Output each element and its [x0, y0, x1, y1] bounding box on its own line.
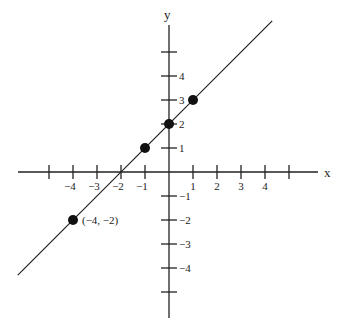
y-tick-label: 3 [179, 94, 185, 106]
x-tick-label: −3 [88, 180, 100, 192]
x-tick-label: 1 [190, 180, 196, 192]
x-tick-label: 2 [214, 180, 220, 192]
x-tick-label: −1 [136, 180, 148, 192]
x-tick-label: −2 [112, 180, 124, 192]
y-tick-label: −2 [179, 214, 191, 226]
coordinate-plane: −4−3−2−11234−4−3−2−11234 (−4, −2) x y [0, 0, 345, 335]
y-tick-label: −3 [179, 238, 191, 250]
x-axis-label: x [324, 165, 331, 180]
data-point [188, 95, 198, 105]
x-tick-label: −4 [64, 180, 76, 192]
y-tick-label: 4 [179, 70, 185, 82]
data-point [68, 215, 78, 225]
data-point [164, 119, 174, 129]
y-axis-label: y [164, 7, 171, 22]
x-tick-label: 3 [238, 180, 244, 192]
y-tick-label: 1 [179, 142, 185, 154]
data-point [140, 143, 150, 153]
y-tick-label: 2 [179, 118, 185, 130]
axes: −4−3−2−11234−4−3−2−11234 [18, 25, 318, 318]
y-tick-label: −1 [179, 190, 191, 202]
y-tick-label: −4 [179, 262, 191, 274]
x-tick-label: 4 [262, 180, 268, 192]
point-label: (−4, −2) [82, 214, 119, 227]
